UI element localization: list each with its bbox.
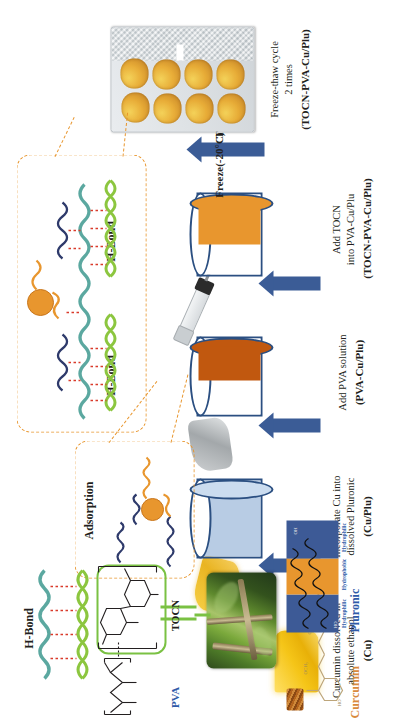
figure-canvas: Curcumin dissolved in absolute ethanol (… [0, 0, 397, 728]
svg-text:HO: HO [336, 698, 341, 706]
hbond-leader-1 [54, 116, 74, 156]
hbond-top-label: H-Bond [22, 588, 36, 668]
bamboo-to-tocn-connector [194, 613, 210, 616]
svg-text:HO: HO [332, 620, 337, 628]
pva-structure-label: PVA [168, 672, 181, 722]
freeze-label: Freeze(-20°C) [212, 132, 225, 222]
step-tocn-caption-line2: into PVA-Cu/Plu [344, 166, 356, 292]
step-pva-caption-line1: Add PVA solution [336, 312, 348, 432]
step-pva-product: (PVA-Cu/Plu) [352, 312, 365, 432]
step-freeze-thaw-caption-line1: Freeze-thaw cycle [268, 16, 280, 142]
adsorption-chain-graphic [100, 448, 186, 570]
pluronic-label: Pluronic [348, 550, 362, 632]
hbond-network-graphic [22, 162, 118, 424]
tocn-structure-label: TOCN [168, 588, 181, 642]
adsorption-label: Adsorption [82, 450, 96, 570]
pluronic-segment-hydrophilic-right: Hydrophilic [340, 514, 346, 560]
process-arrow-2 [258, 412, 320, 438]
process-arrow-3 [258, 270, 320, 296]
vessel-cu-plu [196, 478, 262, 558]
svg-text:OH: OH [292, 526, 297, 534]
step-freeze-thaw-product: (TOCN-PVA-Cu/Plu) [298, 8, 311, 150]
vessel-tocn-pva-cu-plu [196, 192, 262, 276]
schematic-stage: Curcumin dissolved in absolute ethanol (… [0, 0, 397, 728]
well-plate-hydrogel-photo [110, 26, 254, 132]
vessel-pva-cu-plu [196, 336, 262, 416]
step-tocn-product: (TOCN-PVA-Cu/Plu) [360, 158, 373, 298]
step-freeze-thaw-caption-line2: 2 times [282, 16, 294, 142]
pva-tocn-structure-graphic [96, 562, 164, 718]
bamboo-source-photo [206, 572, 276, 668]
pluronic-block-diagram: HO OH [286, 520, 338, 632]
hbond-pair-graphic [36, 564, 90, 684]
curcumin-label: Curcumin [348, 636, 362, 718]
adsorption-leader-2 [170, 374, 188, 442]
step-tocn-caption-line1: Add TOCN [330, 166, 342, 292]
svg-text:OCH₃: OCH₃ [302, 661, 307, 674]
